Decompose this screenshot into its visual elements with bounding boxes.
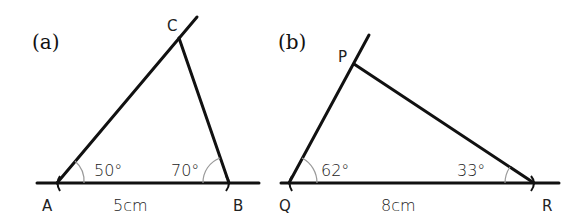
side-pr xyxy=(354,64,534,183)
angle-label-b: 70° xyxy=(171,161,199,180)
angle-label-q: 62° xyxy=(321,161,349,180)
triangle-construction-diagrams: (a) 50° 70° 5cm A B C (b) 62° 33° 8cm Q … xyxy=(0,0,574,223)
part-label-b: (b) xyxy=(278,30,306,54)
angle-label-a: 50° xyxy=(94,161,122,180)
angle-arc-a xyxy=(75,161,84,183)
vertex-label-c: C xyxy=(167,17,177,35)
vertex-label-b: B xyxy=(233,197,243,215)
angle-arc-r xyxy=(505,167,510,183)
length-label-qr: 8cm xyxy=(381,196,416,215)
angle-label-r: 33° xyxy=(457,161,485,180)
figure-a: (a) 50° 70° 5cm A B C xyxy=(32,17,259,215)
side-ac-extended xyxy=(57,17,197,183)
vertex-label-p: P xyxy=(338,48,347,66)
angle-arc-q xyxy=(302,158,317,183)
angle-arc-b xyxy=(203,158,220,183)
vertex-label-a: A xyxy=(42,197,53,215)
diagram-canvas: (a) 50° 70° 5cm A B C (b) 62° 33° 8cm Q … xyxy=(0,0,574,223)
length-label-ab: 5cm xyxy=(113,196,148,215)
figure-b: (b) 62° 33° 8cm Q R P xyxy=(278,30,559,215)
vertex-label-q: Q xyxy=(279,197,291,215)
part-label-a: (a) xyxy=(32,30,60,54)
vertex-label-r: R xyxy=(542,197,552,215)
